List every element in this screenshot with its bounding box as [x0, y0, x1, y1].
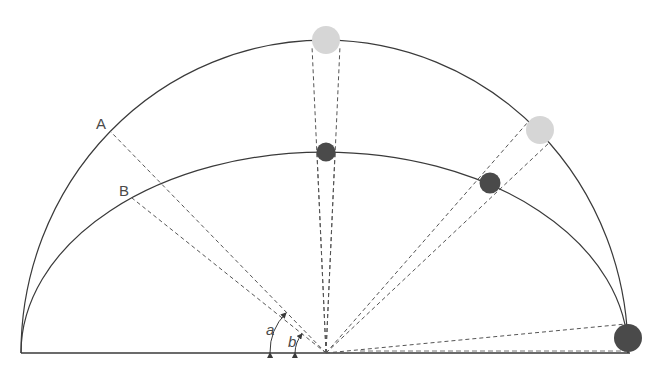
sightline-zenith-inner-right [326, 152, 335, 353]
sightline-zenith-left [312, 46, 326, 353]
sightline-mid-right [326, 142, 550, 353]
sightline-horizon [326, 324, 626, 353]
dark-body-horizon [614, 324, 642, 352]
light-body-mid [526, 116, 554, 144]
label-angle-a: a [266, 321, 274, 338]
diagram-canvas: A B a b [0, 0, 665, 374]
label-angle-b: b [288, 333, 296, 350]
light-body-zenith [312, 26, 340, 54]
sightline-B [132, 198, 326, 353]
outer-arc [21, 40, 628, 353]
dark-body-mid [480, 173, 501, 194]
sightline-zenith-inner-left [317, 152, 326, 353]
dark-body-zenith [317, 143, 336, 162]
sightline-zenith-right [326, 46, 340, 353]
label-B: B [119, 182, 129, 199]
sightline-mid-left [326, 122, 528, 353]
label-A: A [96, 115, 106, 132]
